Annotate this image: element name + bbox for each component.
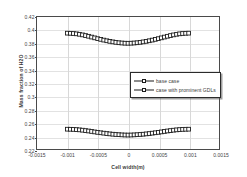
x-tick-label: 0: [128, 152, 131, 158]
y-tick-label: 0.4: [27, 27, 34, 33]
y-tick-label: 0.26: [25, 121, 35, 127]
x-tick-label: -0.001: [60, 152, 74, 158]
y-axis-title: Mass fraction of H2O: [18, 26, 24, 136]
legend-label: case with prominent GDLs: [156, 87, 216, 93]
chart-legend: base case case with prominent GDLs: [130, 72, 221, 98]
y-tick-label: 0.42: [25, 14, 35, 20]
legend-item-base-case: base case: [134, 76, 216, 85]
legend-item-prominent-gdls: case with prominent GDLs: [134, 85, 216, 94]
x-tick-label: 0.001: [184, 152, 197, 158]
chart-figure: Mass fraction of H2O 0.420.40.380.360.34…: [0, 0, 247, 177]
plot-area: 0.420.40.380.360.340.320.30.280.260.240.…: [36, 16, 220, 150]
legend-label: base case: [156, 78, 179, 84]
data-series: [65, 31, 190, 45]
data-point-marker: [187, 127, 191, 131]
x-tick-label: -0.0015: [28, 152, 45, 158]
y-tick-label: 0.3: [27, 94, 34, 100]
x-axis-title: Cell width(m): [36, 164, 220, 170]
y-tick-label: 0.24: [25, 135, 35, 141]
legend-marker-icon: [134, 77, 154, 84]
y-tick-label: 0.38: [25, 41, 35, 47]
data-series: [65, 127, 190, 137]
data-point-marker: [187, 31, 191, 35]
x-tick-label: 0.0005: [152, 152, 168, 158]
legend-marker-icon: [134, 86, 154, 93]
y-tick-label: 0.32: [25, 81, 35, 87]
y-tick-label: 0.36: [25, 54, 35, 60]
y-tick-label: 0.28: [25, 108, 35, 114]
x-tick-label: -0.0005: [90, 152, 107, 158]
x-tick-label: 0.0015: [213, 152, 229, 158]
y-tick-label: 0.34: [25, 68, 35, 74]
